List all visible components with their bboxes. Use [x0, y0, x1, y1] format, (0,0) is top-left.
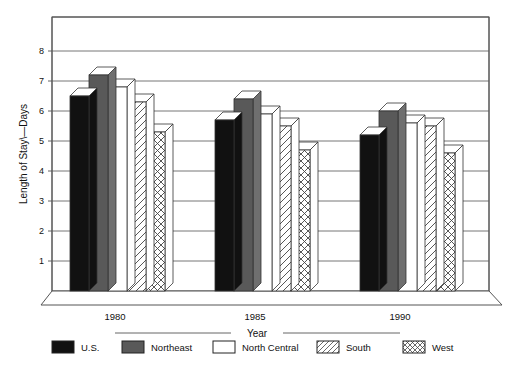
bar-side-face	[127, 79, 135, 291]
chart-canvas: 12345678Length of Stay\—Days198019851990…	[0, 0, 514, 371]
bar-side-face	[455, 145, 463, 291]
y-tick-label: 5	[39, 136, 44, 146]
legend-swatch	[403, 341, 425, 353]
legend: U.S.NortheastNorth CentralSouthWest	[52, 341, 454, 353]
legend-label: South	[346, 342, 371, 353]
bar-side-face	[291, 118, 299, 291]
legend-item-u-s[interactable]: U.S.	[52, 341, 99, 353]
bar-side-face	[272, 106, 280, 291]
y-tick-label: 2	[39, 226, 44, 236]
bar-side-face	[398, 103, 406, 291]
bar-side-face	[379, 127, 387, 291]
bar-side-face	[436, 118, 444, 291]
bar-front-face	[360, 135, 379, 291]
bar-side-face	[234, 112, 242, 291]
bar-side-face	[417, 115, 425, 291]
bar-chart: 12345678Length of Stay\—Days198019851990…	[0, 0, 514, 371]
legend-swatch	[122, 341, 144, 353]
y-axis-title: Length of Stay\—Days	[18, 104, 29, 204]
bar-1985-u-s	[215, 112, 242, 291]
bar-side-face	[89, 88, 97, 291]
x-tick-labels: 198019851990	[104, 311, 410, 322]
x-axis-title-group: Year	[115, 328, 400, 339]
bar-side-face	[253, 91, 261, 291]
x-tick-label-1990: 1990	[389, 311, 410, 322]
bar-front-face	[215, 120, 234, 291]
y-tick-label: 4	[39, 166, 44, 176]
legend-item-north-central[interactable]: North Central	[213, 341, 299, 353]
legend-label: North Central	[242, 342, 299, 353]
legend-item-west[interactable]: West	[403, 341, 454, 353]
x-tick-label-1985: 1985	[244, 311, 265, 322]
bar-1990-u-s	[360, 127, 387, 291]
legend-swatch	[213, 341, 235, 353]
y-tick-label: 3	[39, 196, 44, 206]
legend-label: Northeast	[151, 342, 193, 353]
y-tick-label: 6	[39, 106, 44, 116]
x-tick-label-1980: 1980	[104, 311, 125, 322]
bar-front-face	[70, 96, 89, 291]
legend-swatch	[52, 341, 74, 353]
legend-item-south[interactable]: South	[317, 341, 371, 353]
chart-floor	[41, 291, 502, 305]
x-axis-title: Year	[247, 328, 268, 339]
floor-slab	[41, 291, 502, 305]
y-tick-label: 8	[39, 46, 44, 56]
legend-item-northeast[interactable]: Northeast	[122, 341, 193, 353]
bar-side-face	[165, 124, 173, 291]
y-tick-label: 1	[39, 256, 44, 266]
bar-side-face	[310, 142, 318, 291]
bar-side-face	[108, 67, 116, 291]
legend-label: U.S.	[81, 342, 99, 353]
bar-side-face	[146, 94, 154, 291]
y-tick-label: 7	[39, 76, 44, 86]
bar-1980-u-s	[70, 88, 97, 291]
legend-label: West	[432, 342, 454, 353]
legend-swatch	[317, 341, 339, 353]
